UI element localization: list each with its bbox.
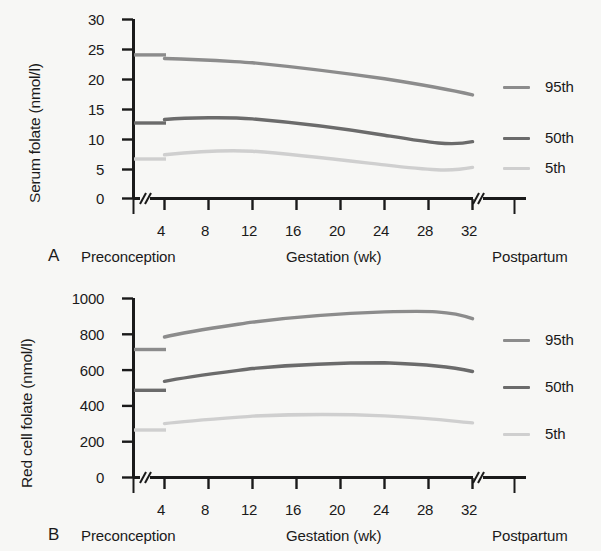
panel-b-letter: B — [48, 525, 60, 545]
panel-b-xtick-16: 16 — [278, 501, 308, 518]
panel-a-legend-swatch-50th — [503, 137, 530, 140]
panel-b-xtick-8: 8 — [190, 501, 220, 518]
panel-b-legend-label-5th: 5th — [545, 425, 566, 442]
panel-b-ytick-800: 800 — [52, 326, 104, 343]
panel-b-ytick-0: 0 — [52, 469, 104, 486]
panel-a-xtick-8: 8 — [190, 222, 220, 239]
panel-b-curve-95th — [165, 311, 473, 337]
panel-b-ytick-600: 600 — [52, 362, 104, 379]
panel-b: Red cell folate (nmol/l) — [0, 275, 601, 551]
panel-a-ytick-10: 10 — [68, 131, 104, 148]
panel-a-ytick-20: 20 — [68, 71, 104, 88]
panel-a-legend-label-5th: 5th — [545, 159, 566, 176]
panel-b-xtick-28: 28 — [410, 501, 440, 518]
panel-a-ytick-5: 5 — [68, 161, 104, 178]
panel-b-curve-50th — [165, 363, 473, 382]
panel-b-xtick-20: 20 — [322, 501, 352, 518]
panel-a-xtick-4: 4 — [146, 222, 176, 239]
panel-b-caption-preconception: Preconception — [81, 527, 176, 544]
panel-a-ytick-15: 15 — [68, 101, 104, 118]
panel-a-xtick-28: 28 — [410, 222, 440, 239]
panel-a-ytick-30: 30 — [68, 11, 104, 28]
panel-b-y-axis-label: Red cell folate (nmol/l) — [18, 339, 36, 488]
panel-a-legend-label-50th: 50th — [545, 129, 574, 146]
panel-a-curve-95th — [165, 59, 473, 95]
panel-a-ytick-25: 25 — [68, 41, 104, 58]
panel-a-legend-label-95th: 95th — [545, 78, 574, 95]
panel-b-xtick-12: 12 — [234, 501, 264, 518]
panel-b-legend-label-50th: 50th — [545, 378, 574, 395]
panel-b-ytick-400: 400 — [52, 397, 104, 414]
panel-b-xtick-32: 32 — [454, 501, 484, 518]
panel-b-legend-label-95th: 95th — [545, 331, 574, 348]
panel-a-xtick-32: 32 — [454, 222, 484, 239]
panel-b-caption-postpartum: Postpartum — [492, 527, 568, 544]
panel-a-xtick-12: 12 — [234, 222, 264, 239]
panel-b-ytick-1000: 1000 — [52, 290, 104, 307]
panel-a-caption-postpartum: Postpartum — [492, 248, 568, 265]
panel-a-curve-5th — [165, 151, 473, 170]
panel-a: Serum folate (nmol/l) — [0, 0, 601, 275]
panel-b-legend-swatch-5th — [503, 433, 530, 436]
panel-b-xtick-4: 4 — [146, 501, 176, 518]
panel-b-legend-swatch-50th — [503, 386, 530, 389]
panel-a-curve-50th — [165, 118, 473, 144]
panel-a-xtick-24: 24 — [366, 222, 396, 239]
panel-a-legend-swatch-95th — [503, 86, 530, 89]
panel-a-y-axis-label: Serum folate (nmol/l) — [26, 63, 44, 203]
panel-a-plot-area — [78, 14, 548, 214]
panel-b-caption-gestation: Gestation (wk) — [286, 527, 381, 544]
panel-b-plot-area — [78, 293, 548, 493]
panel-a-ytick-0: 0 — [68, 190, 104, 207]
panel-b-legend-swatch-95th — [503, 339, 530, 342]
panel-a-letter: A — [48, 246, 60, 266]
panel-a-caption-gestation: Gestation (wk) — [286, 248, 381, 265]
panel-b-xtick-24: 24 — [366, 501, 396, 518]
panel-a-xtick-20: 20 — [322, 222, 352, 239]
panel-b-curve-5th — [165, 415, 473, 424]
panel-a-legend-swatch-5th — [503, 167, 530, 170]
panel-a-caption-preconception: Preconception — [81, 248, 176, 265]
panel-a-xtick-16: 16 — [278, 222, 308, 239]
panel-b-ytick-200: 200 — [52, 433, 104, 450]
